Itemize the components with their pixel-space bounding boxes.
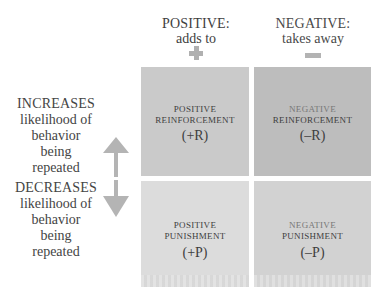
- row-line: being: [0, 228, 112, 244]
- cell-positive-punishment: POSITIVE PUNISHMENT (+P): [141, 181, 249, 287]
- cell-label-line2: PUNISHMENT: [141, 231, 249, 242]
- arrow-up-icon: [103, 137, 129, 177]
- row-line: repeated: [0, 160, 112, 176]
- column-title-positive: POSITIVE:: [140, 16, 252, 31]
- cell-label-line2: PUNISHMENT: [254, 231, 371, 242]
- row-header-increases: INCREASES likelihood of behavior being r…: [0, 96, 112, 176]
- row-header-decreases: DECREASES likelihood of behavior being r…: [0, 180, 112, 260]
- cell-negative-punishment: NEGATIVE PUNISHMENT (–P): [254, 181, 371, 287]
- arrow-down-icon: [103, 180, 129, 218]
- cell-label-line1: NEGATIVE: [254, 220, 371, 231]
- cell-label-line2: REINFORCEMENT: [141, 115, 249, 126]
- row-line: repeated: [0, 244, 112, 260]
- column-header-negative: NEGATIVE: takes away: [254, 16, 372, 46]
- cell-abbreviation: (+R): [141, 130, 249, 141]
- cell-negative-reinforcement: NEGATIVE REINFORCEMENT (–R): [254, 67, 371, 176]
- column-subtitle-positive: adds to: [140, 31, 252, 46]
- column-subtitle-negative: takes away: [254, 31, 372, 46]
- row-line: behavior: [0, 128, 112, 144]
- row-line: behavior: [0, 212, 112, 228]
- plus-icon: [189, 46, 203, 60]
- cell-positive-reinforcement: POSITIVE REINFORCEMENT (+R): [141, 67, 249, 176]
- minus-icon: [305, 53, 321, 58]
- cell-abbreviation: (–P): [254, 247, 371, 258]
- cell-label-line1: POSITIVE: [141, 104, 249, 115]
- row-line: likelihood of: [0, 196, 112, 212]
- column-header-positive: POSITIVE: adds to: [140, 16, 252, 46]
- cell-abbreviation: (–R): [254, 130, 371, 141]
- cell-label-line1: NEGATIVE: [254, 104, 371, 115]
- row-title-increases: INCREASES: [0, 96, 112, 112]
- column-title-negative: NEGATIVE:: [254, 16, 372, 31]
- cell-label-line1: POSITIVE: [141, 220, 249, 231]
- row-title-decreases: DECREASES: [0, 180, 112, 196]
- row-line: being: [0, 144, 112, 160]
- row-line: likelihood of: [0, 112, 112, 128]
- cell-label-line2: REINFORCEMENT: [254, 115, 371, 126]
- cell-abbreviation: (+P): [141, 247, 249, 258]
